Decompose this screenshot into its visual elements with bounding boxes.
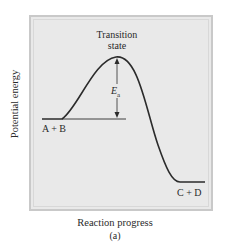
figure-caption: (a) bbox=[100, 230, 130, 241]
x-axis-label: Reaction progress bbox=[60, 217, 170, 228]
products-label: C + D bbox=[177, 187, 202, 198]
activation-energy-label: Ea bbox=[111, 85, 120, 101]
transition-state-label-line2: state bbox=[92, 40, 142, 51]
y-axis-label: Potential energy bbox=[9, 70, 20, 138]
arrow-head-down-icon bbox=[115, 112, 120, 118]
ea-subscript: a bbox=[117, 91, 120, 99]
arrow-head-up-icon bbox=[115, 58, 120, 64]
reactants-label: A + B bbox=[42, 123, 66, 134]
transition-state-label-line1: Transition bbox=[92, 29, 142, 40]
